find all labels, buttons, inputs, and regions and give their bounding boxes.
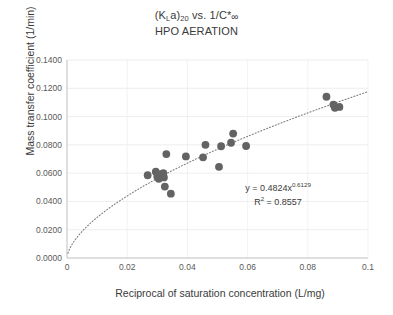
- title-infinity: ∞: [231, 11, 238, 22]
- x-axis-title: Reciprocal of saturation concentration (…: [60, 287, 380, 299]
- data-point: [202, 141, 210, 149]
- x-tick-label: 0.06: [228, 262, 268, 272]
- chart-title-secondary: HPO AERATION: [0, 24, 393, 39]
- data-point: [227, 139, 235, 147]
- chart-title-block: (KLa)20 vs. 1/C*∞ HPO AERATION: [0, 8, 393, 39]
- data-point: [229, 130, 237, 138]
- plot-area: [67, 60, 368, 258]
- y-axis-tick-labels: 0.00000.02000.04000.06000.08000.10000.12…: [14, 60, 62, 258]
- chart-title-primary: (KLa)20 vs. 1/C*∞: [0, 8, 393, 24]
- y-tick-label: 0.1400: [16, 55, 62, 65]
- grid-lines: [67, 60, 368, 258]
- r-squared-value: = 0.8557: [264, 197, 302, 207]
- trendline: [68, 92, 368, 254]
- equation-line: y = 0.4824x0.6129: [218, 181, 338, 195]
- data-point: [215, 163, 223, 171]
- equation-text: y = 0.4824x: [245, 183, 292, 193]
- data-point: [323, 93, 331, 101]
- data-point: [144, 171, 152, 179]
- title-prefix: (K: [155, 9, 166, 21]
- equation-exponent: 0.6129: [292, 181, 311, 188]
- y-tick-label: 0.0200: [16, 225, 62, 235]
- data-point: [182, 153, 190, 161]
- data-point: [161, 183, 169, 191]
- data-point: [336, 103, 344, 111]
- x-tick-label: 0.08: [288, 262, 328, 272]
- y-tick-label: 0.1000: [16, 112, 62, 122]
- data-point: [160, 173, 168, 181]
- data-point: [167, 190, 175, 198]
- chart-container: (KLa)20 vs. 1/C*∞ HPO AERATION Mass tran…: [0, 0, 393, 315]
- data-point: [242, 142, 250, 150]
- y-tick-label: 0.0400: [16, 196, 62, 206]
- axis-lines: [67, 60, 368, 258]
- data-point: [162, 150, 170, 158]
- trendline-equation-annotation: y = 0.4824x0.6129 R2 = 0.8557: [218, 181, 338, 209]
- y-tick-label: 0.0600: [16, 168, 62, 178]
- y-tick-label: 0.0800: [16, 140, 62, 150]
- data-point: [217, 142, 225, 150]
- x-tick-label: 0: [47, 262, 87, 272]
- data-point: [199, 153, 207, 161]
- title-sub-20: 20: [180, 14, 189, 23]
- x-tick-label: 0.02: [107, 262, 147, 272]
- x-tick-label: 0.04: [167, 262, 207, 272]
- r-squared-line: R2 = 0.8557: [218, 195, 338, 209]
- title-mid: a): [170, 9, 180, 21]
- scatter-plot-svg: [67, 60, 368, 258]
- x-tick-label: 0.1: [348, 262, 388, 272]
- y-tick-label: 0.1200: [16, 83, 62, 93]
- x-axis-tick-labels: 00.020.040.060.080.1: [67, 262, 368, 276]
- title-rest: vs. 1/C*: [189, 9, 231, 21]
